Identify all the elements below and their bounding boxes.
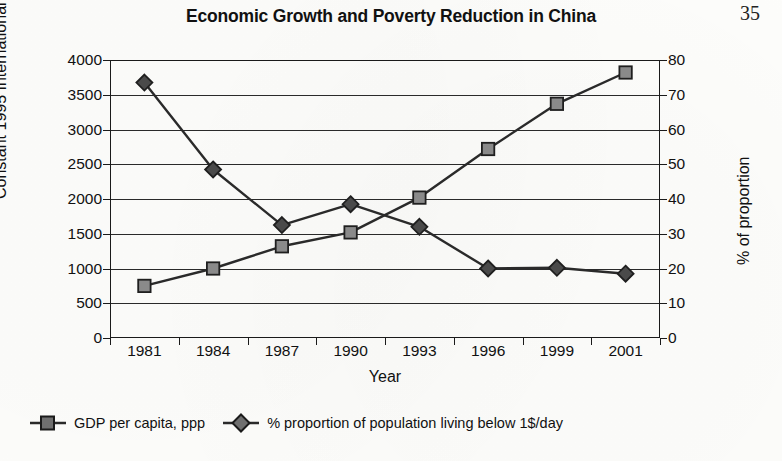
legend-label-poverty: % proportion of population living below … bbox=[267, 415, 563, 431]
y-axis-right-tick-mark bbox=[660, 95, 667, 96]
y-axis-left-tick-mark bbox=[103, 130, 110, 131]
y-axis-left-tick-label: 1500 bbox=[38, 225, 102, 243]
y-axis-right-tick-mark bbox=[660, 199, 667, 200]
y-axis-left-tick-mark bbox=[103, 234, 110, 235]
y-axis-left-tick-label: 4000 bbox=[38, 51, 102, 69]
diamond-marker-icon bbox=[221, 413, 261, 433]
plot-area bbox=[110, 60, 660, 338]
y-axis-right-tick-label: 10 bbox=[668, 294, 708, 312]
chart-legend: GDP per capita, ppp % proportion of popu… bbox=[28, 413, 563, 433]
y-axis-right-tick-label: 60 bbox=[668, 121, 708, 139]
x-axis-tick-label: 1990 bbox=[316, 342, 386, 360]
y-axis-left-tick-mark bbox=[103, 303, 110, 304]
y-axis-left-tick-mark bbox=[103, 338, 110, 339]
y-axis-left-title: Constant 1995 International $ bbox=[0, 0, 10, 199]
y-axis-right-tick-mark bbox=[660, 130, 667, 131]
y-axis-left-tick-mark bbox=[103, 199, 110, 200]
x-axis-tick-label: 1999 bbox=[522, 342, 592, 360]
legend-item-poverty[interactable]: % proportion of population living below … bbox=[221, 413, 563, 433]
y-axis-left-tick-label: 500 bbox=[38, 294, 102, 312]
y-axis-right-tick-mark bbox=[660, 338, 667, 339]
legend-item-gdp[interactable]: GDP per capita, ppp bbox=[28, 414, 205, 432]
y-axis-left-tick-label: 3000 bbox=[38, 121, 102, 139]
y-axis-left-tick-label: 3500 bbox=[38, 86, 102, 104]
chart-page: 35 Economic Growth and Poverty Reduction… bbox=[0, 0, 782, 461]
y-axis-right-tick-label: 50 bbox=[668, 155, 708, 173]
x-axis-tick-label: 1996 bbox=[453, 342, 523, 360]
y-axis-right-tick-mark bbox=[660, 60, 667, 61]
y-axis-right-title: % of proportion bbox=[735, 156, 753, 265]
y-axis-right-tick-label: 80 bbox=[668, 51, 708, 69]
y-axis-right-tick-mark bbox=[660, 303, 667, 304]
y-axis-right-tick-label: 20 bbox=[668, 260, 708, 278]
x-axis-title: Year bbox=[110, 368, 660, 386]
y-axis-left-tick-mark bbox=[103, 269, 110, 270]
x-axis-tick-label: 1987 bbox=[247, 342, 317, 360]
y-axis-left-tick-mark bbox=[103, 95, 110, 96]
chart-title: Economic Growth and Poverty Reduction in… bbox=[0, 6, 782, 27]
square-marker-icon bbox=[28, 414, 68, 432]
x-axis-tick-label: 2001 bbox=[591, 342, 661, 360]
x-axis-tick-label: 1993 bbox=[384, 342, 454, 360]
y-axis-right-tick-label: 30 bbox=[668, 225, 708, 243]
y-axis-right-tick-mark bbox=[660, 164, 667, 165]
y-axis-left-tick-label: 1000 bbox=[38, 260, 102, 278]
y-axis-right-tick-label: 0 bbox=[668, 329, 708, 347]
x-axis-tick-label: 1984 bbox=[178, 342, 248, 360]
y-axis-left-tick-label: 0 bbox=[38, 329, 102, 347]
legend-label-gdp: GDP per capita, ppp bbox=[74, 415, 205, 431]
y-axis-right-tick-mark bbox=[660, 269, 667, 270]
y-axis-left-tick-mark bbox=[103, 164, 110, 165]
y-axis-left-tick-label: 2000 bbox=[38, 190, 102, 208]
y-axis-right-tick-label: 40 bbox=[668, 190, 708, 208]
x-axis-tick-label: 1981 bbox=[109, 342, 179, 360]
y-axis-right-tick-mark bbox=[660, 234, 667, 235]
y-axis-right-tick-label: 70 bbox=[668, 86, 708, 104]
y-axis-left-tick-mark bbox=[103, 60, 110, 61]
y-axis-left-tick-label: 2500 bbox=[38, 155, 102, 173]
